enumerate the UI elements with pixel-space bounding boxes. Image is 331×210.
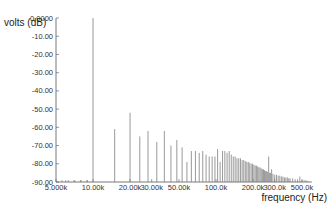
x-tick-label: 30.00k [140, 183, 163, 192]
x-tick-label: 5.000k [45, 183, 68, 192]
y-tick-label: -50.00 [32, 105, 53, 114]
spectrum-bars [62, 18, 308, 182]
y-tick-label: -30.00 [32, 68, 53, 77]
y-tick-label: -60.00 [32, 123, 53, 132]
y-tick-label: -40.00 [32, 86, 53, 95]
y-tick-label: -70.00 [32, 141, 53, 150]
y-axis-title: volts (dB) [4, 17, 46, 28]
x-tick-label: 200.0k [242, 183, 265, 192]
x-tick-label: 300.0k [263, 183, 286, 192]
spectrum-chart: 0.0000-10.00-20.00-30.00-40.00-50.00-60.… [0, 0, 331, 210]
x-axis-title: frequency (Hz) [261, 192, 327, 203]
y-tick-label: -80.00 [32, 159, 53, 168]
y-tick-label: -10.00 [32, 32, 53, 41]
y-tick-label: -20.00 [32, 50, 53, 59]
x-tick-label: 20.00k [119, 183, 142, 192]
x-tick-label: 100.0k [205, 183, 228, 192]
x-tick-label: 500.0k [291, 183, 314, 192]
x-tick-label: 50.00k [168, 183, 191, 192]
x-tick-label: 10.00k [82, 183, 105, 192]
y-axis: 0.0000-10.00-20.00-30.00-40.00-50.00-60.… [30, 14, 59, 187]
